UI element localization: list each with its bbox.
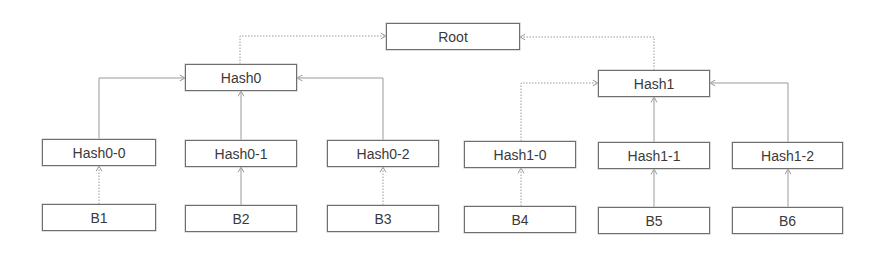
node-label: B3 [374,211,391,227]
node-b2: B2 [185,205,297,232]
node-label: Hash1-1 [628,148,681,164]
node-hash1-2: Hash1-2 [732,142,843,169]
node-label: B1 [90,210,107,226]
edge-hash0_2-to-hash0 [297,78,383,140]
edge-hash1-to-root [520,37,654,70]
node-label: Hash0-2 [357,146,410,162]
merkle-tree-diagram: Root Hash0 Hash1 Hash0-0 Hash0-1 Hash0-2… [0,0,878,257]
edge-hash0_0-to-hash0 [99,78,185,139]
node-hash0: Hash0 [185,64,297,91]
edge-hash0-to-root [240,36,386,64]
node-label: Hash1 [634,76,674,92]
node-b6: B6 [732,207,843,234]
node-label: B5 [645,213,662,229]
node-hash0-2: Hash0-2 [327,140,439,167]
node-label: B2 [232,211,249,227]
node-label: B4 [511,212,528,228]
node-label: Hash0-1 [215,146,268,162]
node-label: Hash0-0 [73,145,126,161]
node-b1: B1 [42,204,156,231]
node-hash1-0: Hash1-0 [464,141,576,168]
node-hash0-1: Hash0-1 [185,140,297,167]
edge-hash1_2-to-hash1 [710,83,788,142]
node-label: Hash1-2 [761,148,814,164]
node-b5: B5 [598,207,710,234]
node-hash1-1: Hash1-1 [598,142,710,169]
node-label: Hash0 [221,70,261,86]
node-hash0-0: Hash0-0 [42,139,156,166]
node-root: Root [386,23,520,50]
edge-hash1_0-to-hash1 [521,83,598,141]
node-hash1: Hash1 [598,70,710,97]
node-label: Hash1-0 [494,147,547,163]
node-label: Root [438,29,468,45]
node-b4: B4 [464,206,576,233]
node-b3: B3 [327,205,439,232]
node-label: B6 [779,213,796,229]
